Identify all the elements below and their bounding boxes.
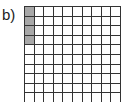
grid-cell	[92, 17, 102, 27]
grid-cell	[44, 65, 54, 75]
grid-cell	[92, 74, 102, 84]
grid-cell	[63, 55, 73, 65]
grid-cell	[25, 65, 35, 75]
grid-cell	[83, 17, 93, 27]
grid-cell	[102, 74, 112, 84]
grid-cell	[102, 93, 112, 102]
grid-cell	[44, 26, 54, 36]
grid-cell	[63, 84, 73, 94]
grid-cell	[54, 36, 64, 46]
grid-cell	[54, 45, 64, 55]
grid-cell	[83, 74, 93, 84]
grid-cell	[63, 26, 73, 36]
grid-cell	[83, 84, 93, 94]
grid-cell	[111, 17, 121, 27]
grid-cell	[44, 7, 54, 17]
hundred-grid	[24, 6, 121, 102]
grid-cell	[35, 26, 45, 36]
grid-cell	[83, 36, 93, 46]
grid-cell	[25, 93, 35, 102]
grid-cell	[54, 93, 64, 102]
grid-cell	[111, 7, 121, 17]
grid-cell	[92, 93, 102, 102]
grid-cell	[102, 7, 112, 17]
grid-cell	[102, 65, 112, 75]
shaded-cell	[25, 26, 35, 36]
grid-cell	[63, 65, 73, 75]
grid-cell	[44, 45, 54, 55]
grid-cell	[73, 84, 83, 94]
grid-cell	[111, 45, 121, 55]
grid-cell	[73, 55, 83, 65]
grid-cell	[54, 7, 64, 17]
grid-cell	[111, 36, 121, 46]
shaded-cell	[25, 17, 35, 27]
grid-cell	[63, 45, 73, 55]
grid-cell	[35, 7, 45, 17]
grid-cell	[44, 36, 54, 46]
grid-cell	[73, 26, 83, 36]
grid-cell	[44, 93, 54, 102]
grid-cell	[111, 26, 121, 36]
grid-cell	[54, 17, 64, 27]
grid-cell	[44, 55, 54, 65]
grid-cell	[102, 17, 112, 27]
grid-cell	[35, 55, 45, 65]
grid-cell	[73, 7, 83, 17]
grid-cell	[111, 84, 121, 94]
grid-cell	[92, 55, 102, 65]
grid-cell	[83, 26, 93, 36]
grid-cell	[102, 36, 112, 46]
grid-cell	[92, 45, 102, 55]
grid-cell	[54, 55, 64, 65]
grid-cell	[83, 65, 93, 75]
grid-cell	[111, 74, 121, 84]
grid-cell	[83, 45, 93, 55]
grid-cell	[83, 93, 93, 102]
grid-cell	[44, 84, 54, 94]
grid-cell	[92, 84, 102, 94]
shaded-cell	[25, 7, 35, 17]
grid-cell	[54, 65, 64, 75]
grid-cell	[102, 26, 112, 36]
grid-cell	[54, 84, 64, 94]
grid-cell	[25, 55, 35, 65]
grid-cell	[63, 17, 73, 27]
grid-cell	[63, 74, 73, 84]
grid-cell	[111, 65, 121, 75]
grid-cell	[73, 74, 83, 84]
shaded-cell	[25, 36, 35, 46]
grid-cell	[44, 74, 54, 84]
grid-cell	[73, 65, 83, 75]
grid-cell	[83, 7, 93, 17]
grid-cell	[25, 45, 35, 55]
grid-cell	[44, 17, 54, 27]
grid-cell	[54, 74, 64, 84]
grid-cell	[25, 74, 35, 84]
grid-cell	[35, 74, 45, 84]
grid-cell	[102, 84, 112, 94]
grid-cell	[63, 93, 73, 102]
grid-cell	[73, 45, 83, 55]
grid-cell	[73, 17, 83, 27]
grid-cell	[35, 65, 45, 75]
grid-cell	[92, 7, 102, 17]
grid-cell	[63, 36, 73, 46]
grid-cell	[35, 93, 45, 102]
grid-cell	[35, 84, 45, 94]
grid-cell	[92, 65, 102, 75]
grid-cell	[25, 84, 35, 94]
grid-cell	[63, 7, 73, 17]
grid-cell	[73, 93, 83, 102]
grid-cell	[111, 55, 121, 65]
grid-cell	[35, 36, 45, 46]
grid-cell	[35, 45, 45, 55]
grid-cell	[73, 36, 83, 46]
grid-cell	[92, 36, 102, 46]
grid-cell	[54, 26, 64, 36]
grid-cell	[102, 55, 112, 65]
grid-cell	[102, 45, 112, 55]
grid-cell	[92, 26, 102, 36]
grid-cell	[35, 17, 45, 27]
figure-label: b)	[2, 6, 15, 24]
